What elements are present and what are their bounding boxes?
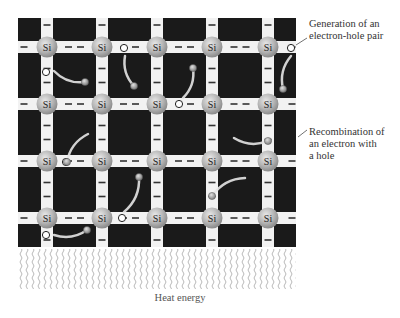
electron-icon (208, 192, 215, 199)
label-leader-lines (296, 38, 307, 137)
si-atom: Si (202, 151, 223, 172)
svg-text:Si: Si (153, 99, 162, 110)
electron-icon (264, 137, 271, 144)
si-atom: Si (37, 151, 58, 172)
si-atom: Si (37, 208, 58, 229)
svg-text:Si: Si (153, 42, 162, 53)
svg-text:Si: Si (98, 213, 107, 224)
svg-text:Si: Si (264, 42, 273, 53)
electron-icon (83, 226, 90, 233)
si-atom: Si (202, 37, 223, 58)
si-atom: Si (147, 151, 168, 172)
svg-text:Si: Si (43, 42, 52, 53)
svg-text:Si: Si (153, 213, 162, 224)
si-atom: Si (147, 94, 168, 115)
hole-icon (42, 231, 49, 238)
si-atom: Si (258, 151, 279, 172)
si-atom: Si (37, 94, 58, 115)
hole-icon (118, 214, 125, 221)
si-atom: Si (147, 208, 168, 229)
svg-text:Si: Si (264, 99, 273, 110)
heat-energy-region (18, 249, 296, 289)
si-atom: Si (202, 94, 223, 115)
generation-label: Generation of an electron-hole pair (309, 18, 383, 42)
hole-icon (287, 44, 294, 51)
si-atom: Si (258, 94, 279, 115)
svg-text:Si: Si (208, 213, 217, 224)
electron-icon (279, 85, 286, 92)
svg-text:Si: Si (153, 156, 162, 167)
electron-icon (135, 173, 142, 180)
svg-text:Si: Si (208, 42, 217, 53)
recombination-label: Recombination of an electron with a hole (309, 126, 385, 162)
electron-icon (189, 64, 196, 71)
svg-text:Si: Si (208, 99, 217, 110)
si-atom: Si (92, 208, 113, 229)
si-atom: Si (37, 37, 58, 58)
svg-text:Si: Si (43, 213, 52, 224)
svg-text:Si: Si (264, 156, 273, 167)
hole-icon (120, 44, 127, 51)
svg-text:Si: Si (98, 156, 107, 167)
heat-energy-label: Heat energy (130, 292, 230, 304)
electron-icon (81, 78, 88, 85)
electron-icon (63, 158, 70, 165)
si-atom: Si (202, 208, 223, 229)
si-atom: Si (92, 94, 113, 115)
electron-icon (130, 82, 137, 89)
si-atom: Si (147, 37, 168, 58)
si-atom: Si (258, 208, 279, 229)
si-atom: Si (258, 37, 279, 58)
svg-text:Si: Si (264, 213, 273, 224)
svg-text:Si: Si (43, 156, 52, 167)
si-atom: Si (92, 151, 113, 172)
hole-icon (175, 100, 182, 107)
svg-text:Si: Si (98, 99, 107, 110)
hole-icon (42, 68, 49, 75)
si-atom: Si (92, 37, 113, 58)
svg-text:Si: Si (43, 99, 52, 110)
svg-text:Si: Si (208, 156, 217, 167)
svg-text:Si: Si (98, 42, 107, 53)
